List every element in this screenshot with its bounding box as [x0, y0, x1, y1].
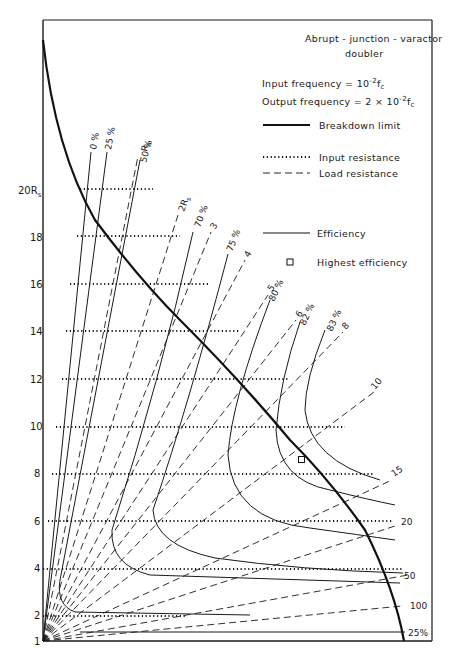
label-load-30-50: 50 [404, 571, 416, 581]
efficiency-curve-25 [43, 152, 107, 641]
legend-load-resistance-label: Load resistance [319, 168, 398, 179]
efficiency-curve-83 [305, 330, 380, 480]
label-eff-70: 70 % [192, 203, 209, 228]
efficiency-curve-80 [228, 300, 395, 540]
legend-highest-efficiency-label: Highest efficiency [317, 257, 408, 268]
y-tick-8: 8 [34, 468, 40, 479]
y-tick-14: 14 [30, 326, 43, 337]
legend-input-frequency: Input frequency = 10-2fc [262, 77, 385, 91]
legend-input-resistance-label: Input resistance [319, 152, 400, 163]
legend-highest-efficiency-swatch [287, 259, 293, 265]
label-load-3: 3 [208, 221, 220, 231]
efficiency-curve-0 [43, 152, 91, 641]
highest-efficiency-marker [299, 457, 305, 463]
label-load-10: 10 [369, 376, 384, 391]
legend-breakdown-label: Breakdown limit [319, 120, 400, 131]
legend: Abrupt - junction - varactor doubler Inp… [262, 33, 443, 268]
y-tick-16: 16 [30, 279, 43, 290]
legend-title-line1: Abrupt - junction - varactor [305, 33, 443, 44]
y-tick-20: 20Rs [18, 185, 42, 199]
label-load-2rs: 2Rs [176, 194, 193, 213]
efficiency-curve-70 [112, 232, 400, 583]
chart-svg: 20Rs 18 16 14 12 10 8 6 4 2 1 [0, 0, 450, 660]
y-tick-6: 6 [34, 516, 40, 527]
label-eff-25-bottom: 25% [408, 628, 428, 638]
legend-output-frequency: Output frequency = 2 × 10-2fc [262, 95, 415, 109]
label-load-20: 20 [401, 517, 413, 527]
label-load-8: 8 [340, 320, 352, 331]
label-eff-75: 75 % [225, 227, 243, 252]
efficiency-curve-82 [276, 322, 395, 505]
label-eff-25: 25 % [103, 126, 117, 151]
label-eff-83: 83 % [325, 307, 344, 332]
label-load-4: 4 [242, 249, 254, 259]
chart-figure: 20Rs 18 16 14 12 10 8 6 4 2 1 [0, 0, 450, 660]
y-tick-1: 1 [34, 636, 40, 647]
y-tick-18: 18 [30, 232, 43, 243]
y-tick-10: 10 [30, 421, 43, 432]
label-load-100: 100 [410, 601, 427, 611]
load-resistance-labels: Rs 2Rs 3 4 5 6 8 10 15 20 50 100 [139, 140, 427, 611]
y-tick-2: 2 [34, 610, 40, 621]
y-axis: 20Rs 18 16 14 12 10 8 6 4 2 1 [18, 185, 43, 647]
input-resistance-lines [43, 189, 402, 616]
y-tick-12: 12 [30, 374, 43, 385]
legend-efficiency-label: Efficiency [317, 228, 366, 239]
y-tick-4: 4 [34, 563, 40, 574]
legend-title-line2: doubler [345, 48, 383, 59]
efficiency-curves [43, 152, 405, 641]
label-eff-0: 0 % [88, 131, 101, 150]
label-load-15: 15 [389, 464, 404, 479]
